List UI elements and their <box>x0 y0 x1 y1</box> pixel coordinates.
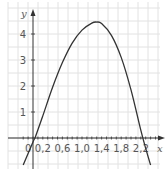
y-axis-label: y <box>20 8 27 19</box>
x-tick-label: 1,0 <box>74 143 90 154</box>
y-tick-label: 1 <box>20 107 26 118</box>
x-tick-label: 0,2 <box>35 143 51 154</box>
ticks <box>23 34 155 140</box>
y-tick-label: 3 <box>20 55 26 66</box>
chart: 00,20,61,01,41,82,21234 x y <box>0 0 168 169</box>
y-tick-label: 4 <box>20 29 26 40</box>
x-tick-label: 0,6 <box>54 143 70 154</box>
y-tick-label: 2 <box>20 81 26 92</box>
x-axis-label: x <box>157 143 163 154</box>
x-tick-label: 1,4 <box>94 143 110 154</box>
x-tick-label: 1,8 <box>113 143 129 154</box>
y-axis-arrow-icon <box>31 9 36 16</box>
x-axis-arrow-icon <box>158 136 165 141</box>
